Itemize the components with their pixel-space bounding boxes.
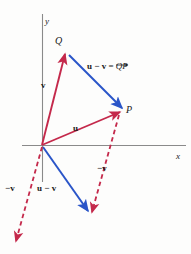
point-label-p: P [126,105,132,115]
vector-neg-v-origin-line [16,147,42,241]
vector-diagram-canvas [0,0,191,254]
vector-label-u-minus-v-lower: u − v [37,184,56,193]
x-axis-label: x [176,152,180,161]
segment-label-qp: QP [116,61,128,71]
y-axis-label: y [45,17,49,26]
vector-label-u: u [73,124,78,133]
vector-lines-group [16,54,122,241]
vector-label-v: v [41,81,46,90]
vector-label-u-minus-v-equals-qp: u − v = QP [87,61,128,71]
vector-v-line [42,54,65,145]
vector-u-line [42,112,120,145]
vector-label-neg-v-right: −v [97,164,107,173]
axis-group [22,14,186,182]
vector-diagram-figure: y x Q P v u u − v = QP u − v −v −v [0,0,191,254]
equation-lead-text: u − v = [87,61,116,71]
vector-u-minus-v-origin-line [43,147,88,211]
vector-label-neg-v-left: −v [5,184,15,193]
point-label-q: Q [55,36,62,46]
qp-overarrow-group: QP [116,61,128,71]
